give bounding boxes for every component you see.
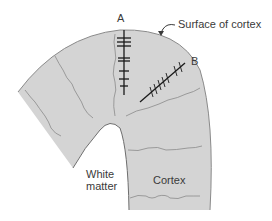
label-white-matter-line1: White xyxy=(86,168,117,180)
label-electrode-b: B xyxy=(191,55,198,67)
cortex-diagram xyxy=(0,0,272,221)
surface-leader-arrow xyxy=(158,25,175,37)
label-cortex: Cortex xyxy=(153,174,185,186)
label-white-matter-line2: matter xyxy=(86,180,117,192)
label-surface-of-cortex: Surface of cortex xyxy=(178,18,261,30)
label-white-matter: White matter xyxy=(86,168,117,192)
label-electrode-a: A xyxy=(117,12,124,24)
